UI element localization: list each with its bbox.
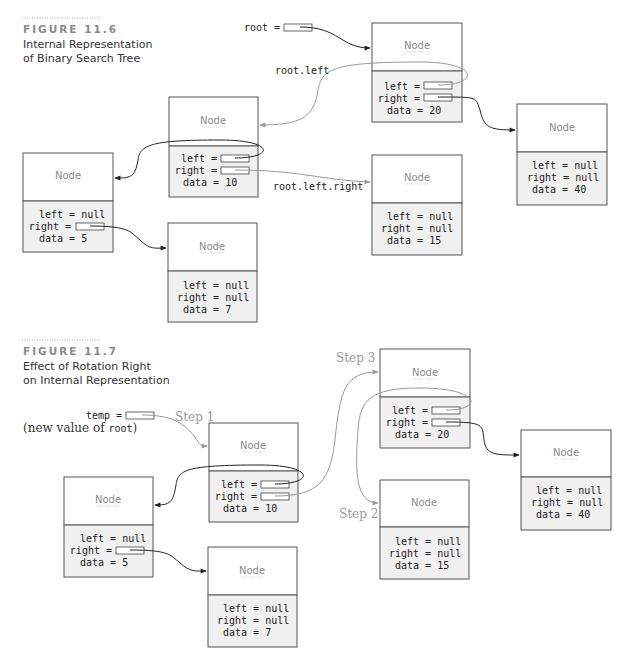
annotation-root-left-right: root.left.right — [273, 181, 363, 192]
node-left-field: left = — [181, 153, 217, 164]
node-right-field: right = null — [217, 615, 289, 626]
figure-11-6: FIGURE 11.6 Internal Representation of B… — [22, 18, 607, 322]
node-5: Node left = null right = data = 5 — [64, 477, 153, 577]
node-right-field: right = — [175, 165, 217, 176]
node-20: Node left = right = data = 20 — [372, 23, 462, 122]
node-right-field: right = null — [531, 497, 603, 508]
node-data-field: data = 15 — [395, 560, 449, 571]
node-left-field: left = null — [183, 280, 249, 291]
node-data-field: data = 15 — [387, 235, 441, 246]
figure-label: FIGURE 11.6 — [23, 23, 118, 35]
node-10: Node left = right = data = 10 — [169, 97, 258, 197]
node-data-field: data = 40 — [532, 184, 586, 195]
node-right-field: right = — [386, 417, 428, 428]
diagram-stage: FIGURE 11.6 Internal Representation of B… — [0, 0, 634, 659]
node-7: Node left = null right = null data = 7 — [168, 223, 257, 322]
diagram-canvas: FIGURE 11.6 Internal Representation of B… — [0, 0, 634, 659]
node-5: Node left = null right = data = 5 — [23, 153, 113, 252]
node-header: Node — [199, 241, 225, 252]
node-left-field: left = null — [536, 485, 602, 496]
node-left-field: left = null — [223, 603, 289, 614]
step-3-label: Step 3 — [336, 351, 375, 365]
node-20: Node left = right = data = 20 — [380, 349, 470, 448]
figure-11-7: FIGURE 11.7 Effect of Rotation Right on … — [22, 340, 611, 647]
node-7: Node left = null right = null data = 7 — [208, 547, 297, 647]
figure-caption-line: on Internal Representation — [23, 374, 170, 387]
temp-note: (new value of root) — [23, 421, 137, 435]
node-header: Node — [55, 170, 81, 181]
node-data-field: data = 7 — [223, 627, 271, 638]
step-2-label: Step 2 — [339, 507, 378, 521]
node-data-field: data = 10 — [183, 177, 237, 188]
figure-caption-line: of Binary Search Tree — [23, 52, 140, 65]
figure-caption-line: Effect of Rotation Right — [23, 360, 151, 373]
figure-caption-line: Internal Representation — [23, 38, 152, 51]
node-header: Node — [95, 494, 121, 505]
node-data-field: data = 5 — [80, 557, 128, 568]
node-left-field: left = null — [387, 211, 453, 222]
node-data-field: data = 20 — [387, 105, 441, 116]
node-header: Node — [240, 440, 266, 451]
node-header: Node — [412, 367, 438, 378]
node-left-field: left = null — [39, 209, 105, 220]
node-data-field: data = 40 — [536, 509, 590, 520]
node-15: Node left = null right = null data = 15 — [380, 480, 469, 579]
node-left-field: left = null — [532, 160, 598, 171]
node-data-field: data = 20 — [395, 429, 449, 440]
node-data-field: data = 5 — [39, 233, 87, 244]
node-10: Node left = right = data = 10 — [209, 423, 298, 522]
node-right-field: right = null — [177, 292, 249, 303]
node-header: Node — [200, 115, 226, 126]
node-header: Node — [411, 497, 437, 508]
node-right-field: right = — [215, 491, 257, 502]
node-header: Node — [404, 40, 430, 51]
step-1-label: Step 1 — [175, 410, 214, 424]
node-right-field: right = null — [527, 172, 599, 183]
temp-variable-label: temp = — [86, 410, 122, 421]
node-left-field: left = null — [80, 533, 146, 544]
node-left-field: left = — [384, 81, 420, 92]
node-right-field: right = — [378, 93, 420, 104]
node-header: Node — [404, 172, 430, 183]
node-data-field: data = 10 — [223, 503, 277, 514]
node-right-field: right = null — [381, 223, 453, 234]
node-header: Node — [239, 565, 265, 576]
node-left-field: left = null — [395, 536, 461, 547]
node-header: Node — [549, 122, 575, 133]
root-variable-label: root = — [244, 22, 280, 33]
annotation-root-left: root.left — [275, 65, 329, 76]
node-40: Node left = null right = null data = 40 — [521, 430, 611, 530]
node-left-field: left = — [392, 405, 428, 416]
node-right-field: right = — [29, 221, 71, 232]
node-right-field: right = null — [389, 548, 461, 559]
figure-label: FIGURE 11.7 — [23, 345, 118, 357]
node-left-field: left = — [221, 479, 257, 490]
node-15: Node left = null right = null data = 15 — [372, 155, 462, 255]
node-right-field: right = — [70, 545, 112, 556]
node-40: Node left = null right = null data = 40 — [517, 104, 607, 205]
node-header: Node — [553, 447, 579, 458]
node-data-field: data = 7 — [183, 304, 231, 315]
